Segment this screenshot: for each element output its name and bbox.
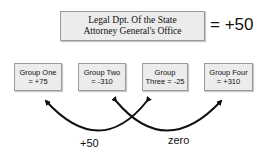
- arc-one-label: +50: [80, 137, 99, 149]
- arc-two-label: zero: [168, 134, 189, 146]
- arrows-layer: [0, 0, 264, 161]
- arc-arrow-two: [116, 101, 221, 131]
